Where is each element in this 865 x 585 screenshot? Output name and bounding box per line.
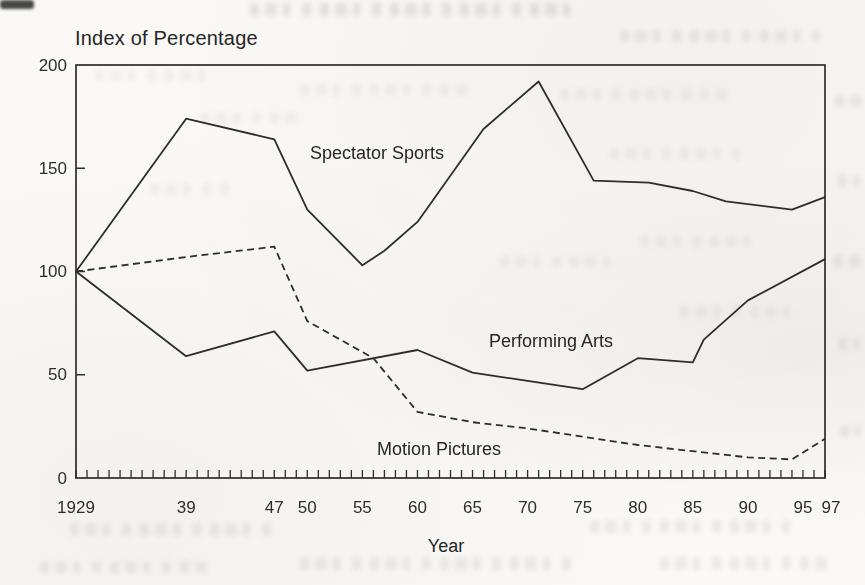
- x-tick-label-97: 97: [822, 498, 841, 517]
- x-tick-label-50: 50: [298, 498, 317, 517]
- series-line-motion-pictures: [76, 247, 825, 460]
- x-tick-label-90: 90: [738, 498, 757, 517]
- x-tick-label-1929: 1929: [57, 498, 95, 517]
- x-tick-label-65: 65: [463, 498, 482, 517]
- y-tick-label: 0: [58, 469, 67, 488]
- plot-frame: [76, 65, 825, 478]
- y-tick-label: 100: [39, 262, 67, 281]
- line-chart-canvas: 0501001502001929394750556065707580859095…: [0, 0, 865, 585]
- x-tick-label-80: 80: [628, 498, 647, 517]
- y-tick-label: 200: [39, 56, 67, 75]
- series-line-performing-arts: [76, 259, 825, 389]
- scanned-book-page: 0501001502001929394750556065707580859095…: [0, 0, 865, 585]
- x-tick-label-75: 75: [573, 498, 592, 517]
- chart-title: Index of Percentage: [75, 27, 258, 50]
- x-tick-label-39: 39: [177, 498, 196, 517]
- x-tick-label-95: 95: [794, 498, 813, 517]
- x-tick-label-85: 85: [683, 498, 702, 517]
- x-tick-label-47: 47: [265, 498, 284, 517]
- y-tick-label: 150: [39, 159, 67, 178]
- series-line-spectator-sports: [76, 82, 825, 272]
- series-label-performing-arts: Performing Arts: [489, 331, 613, 352]
- series-label-spectator-sports: Spectator Sports: [310, 143, 444, 164]
- x-tick-label-70: 70: [518, 498, 537, 517]
- y-tick-label: 50: [48, 365, 67, 384]
- x-tick-label-55: 55: [353, 498, 372, 517]
- x-tick-label-60: 60: [408, 498, 427, 517]
- series-label-motion-pictures: Motion Pictures: [377, 439, 501, 460]
- x-axis-title: Year: [386, 536, 506, 557]
